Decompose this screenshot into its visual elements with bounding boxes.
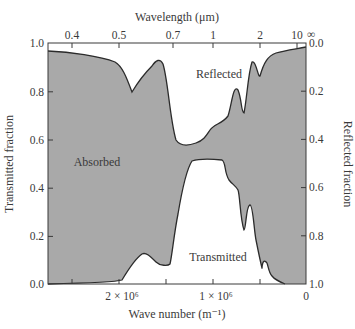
top-tick-label: 2 bbox=[257, 29, 263, 41]
left-tick-label: 1.0 bbox=[30, 37, 45, 49]
left-tick-label: 0.4 bbox=[30, 182, 45, 194]
right-tick-label: 0.4 bbox=[309, 133, 324, 145]
left-tick-label: 0.2 bbox=[30, 230, 45, 242]
reflected-label: Reflected bbox=[196, 67, 242, 81]
right-tick-label: 1.0 bbox=[309, 278, 324, 290]
bottom-tick-label: 2 × 10⁶ bbox=[105, 290, 139, 302]
left-tick-label: 0.0 bbox=[30, 278, 45, 290]
top-tick-label: 0.7 bbox=[166, 29, 181, 41]
right-tick-label: 0.8 bbox=[309, 230, 324, 242]
top-tick-label: 10 bbox=[291, 29, 303, 41]
top-tick-label: 0.4 bbox=[65, 29, 80, 41]
right-tick-label: 0.0 bbox=[309, 37, 324, 49]
chart: Wavelength (μm) 0.4 0.5 0.7 1 2 10 ∞ 2 ×… bbox=[0, 0, 355, 329]
left-tick-label: 0.8 bbox=[30, 86, 45, 98]
left-axis-title: Transmitted fraction bbox=[2, 115, 16, 213]
transmitted-label: Transmitted bbox=[189, 250, 247, 264]
bottom-tick-label: 1 × 10⁶ bbox=[199, 290, 233, 302]
absorbed-label: Absorbed bbox=[74, 155, 121, 169]
top-axis-ticks bbox=[72, 43, 297, 48]
right-axis-title: Reflected fraction bbox=[341, 121, 355, 207]
top-axis-title: Wavelength (μm) bbox=[135, 10, 219, 24]
left-tick-label: 0.6 bbox=[30, 134, 45, 146]
right-tick-label: 0.6 bbox=[309, 181, 324, 193]
bottom-tick-label: 0 bbox=[303, 290, 309, 302]
top-tick-label: 1 bbox=[210, 29, 216, 41]
top-tick-label: 0.5 bbox=[112, 29, 127, 41]
bottom-axis-title: Wave number (m⁻¹) bbox=[129, 307, 226, 321]
right-tick-label: 0.2 bbox=[309, 85, 324, 97]
